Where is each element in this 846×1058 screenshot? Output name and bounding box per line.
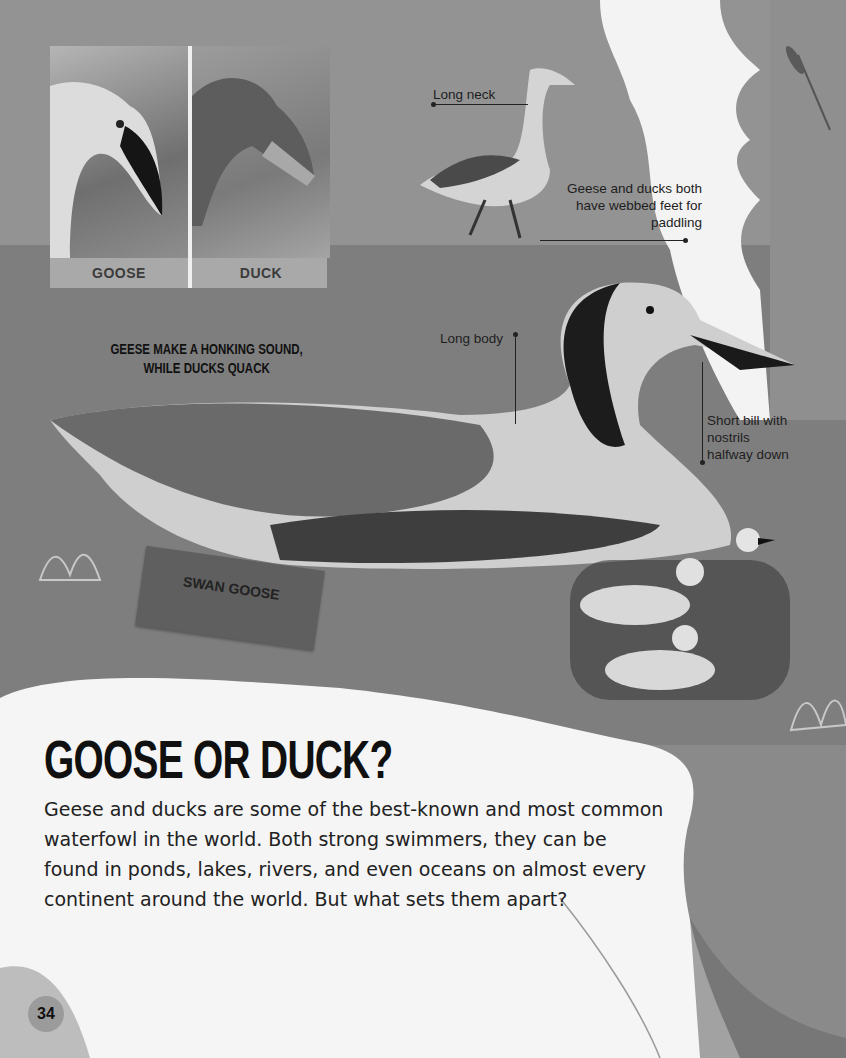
duck-photo (192, 46, 330, 258)
callout-dot (431, 102, 436, 107)
page-title: GOOSE OR DUCK? (44, 728, 393, 790)
callout-dot (683, 238, 688, 243)
comparison-card: GOOSE DUCK (50, 46, 327, 288)
callout-line (515, 334, 516, 424)
callout-long-body: Long body (440, 330, 503, 347)
callout-line (540, 240, 685, 241)
callout-line (433, 104, 528, 105)
lily-flower-icon (30, 530, 110, 590)
page-number: 34 (28, 996, 64, 1032)
callout-dot (513, 332, 518, 337)
callout-webbed-feet: Geese and ducks both have webbed feet fo… (566, 180, 702, 231)
callout-long-neck: Long neck (433, 86, 495, 103)
goose-photo (50, 46, 188, 258)
intro-paragraph: Geese and ducks are some of the best-kno… (44, 794, 664, 914)
callout-line (702, 362, 703, 462)
callout-dot (700, 460, 705, 465)
callout-short-bill: Short bill with nostrils halfway down (707, 412, 797, 463)
